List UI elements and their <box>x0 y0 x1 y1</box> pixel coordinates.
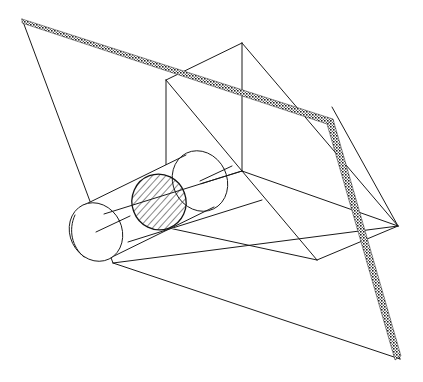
shaded-edge-lower-segment <box>327 119 401 360</box>
figure-canvas: Cylinder intersected by a plane, with a … <box>0 0 423 382</box>
geometry-diagram <box>0 0 423 382</box>
secondary-plane-bottom-edge <box>113 263 400 359</box>
